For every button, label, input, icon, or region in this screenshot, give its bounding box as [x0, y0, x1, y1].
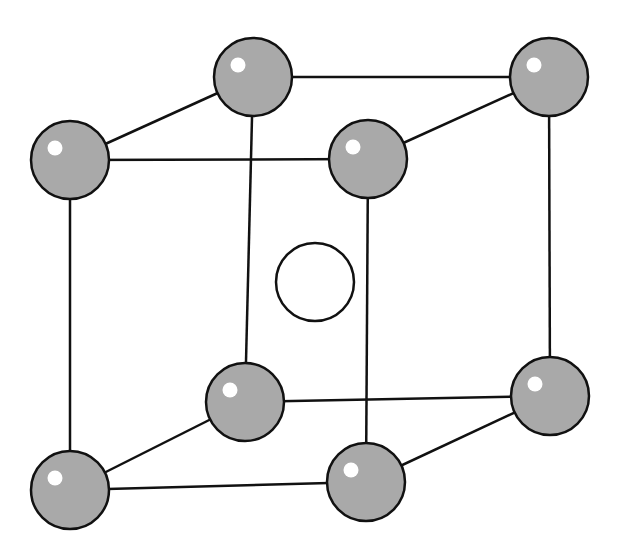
atom-sphere: [510, 38, 588, 116]
corner-atom-top-front-right: [329, 120, 407, 198]
corner-atom-top-back-right: [510, 38, 588, 116]
corner-atom-bottom-back-right: [511, 357, 589, 435]
corner-atom-bottom-front-left: [31, 451, 109, 529]
atom-highlight: [231, 58, 246, 73]
atom-sphere: [206, 363, 284, 441]
edge-bottom-front-left-to-bottom-front-right: [70, 482, 366, 490]
body-center-atom: [276, 243, 354, 321]
atom-highlight: [346, 140, 361, 155]
atom-highlight: [48, 471, 63, 486]
atom-highlight: [344, 463, 359, 478]
corner-atom-bottom-back-left: [206, 363, 284, 441]
atom-sphere: [327, 443, 405, 521]
edge-top-back-right-to-bottom-back-right: [549, 77, 550, 396]
atom-sphere: [31, 121, 109, 199]
corner-atom-top-front-left: [31, 121, 109, 199]
atom-sphere: [511, 357, 589, 435]
atom-sphere: [31, 451, 109, 529]
edge-top-front-right-to-bottom-front-right: [366, 159, 368, 482]
edge-top-back-left-to-bottom-back-left: [245, 77, 253, 402]
edge-top-front-left-to-top-front-right: [70, 159, 368, 160]
body-center-atom-group: [276, 243, 354, 321]
corner-atom-top-back-left: [214, 38, 292, 116]
atom-sphere: [214, 38, 292, 116]
atom-highlight: [48, 141, 63, 156]
corner-atom-bottom-front-right: [327, 443, 405, 521]
atom-highlight: [223, 383, 238, 398]
atom-highlight: [527, 58, 542, 73]
edge-bottom-back-left-to-bottom-back-right: [245, 396, 550, 402]
atom-sphere: [329, 120, 407, 198]
bcc-unit-cell-diagram: [0, 0, 621, 553]
atom-highlight: [528, 377, 543, 392]
